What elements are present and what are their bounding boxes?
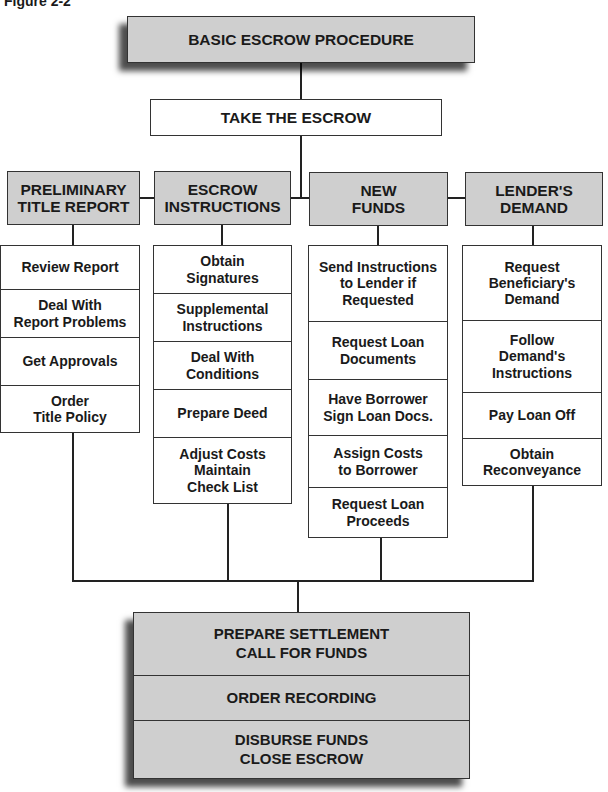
list-item: Order Title Policy [1, 386, 139, 432]
list-item: Assign Costs to Borrower [309, 436, 447, 488]
header-lenders-demand: LENDER'S DEMAND [465, 172, 603, 226]
list-item: Send Instructions to Lender if Requested [309, 246, 447, 322]
task-list-lenders-demand: Request Beneficiary's Demand Follow Dema… [462, 245, 602, 486]
take-escrow-box: TAKE THE ESCROW [150, 99, 442, 136]
task-list-preliminary: Review Report Deal With Report Problems … [0, 245, 140, 433]
connector [72, 224, 74, 246]
list-item: Review Report [1, 246, 139, 290]
connector [532, 225, 534, 246]
closing-step: ORDER RECORDING [134, 676, 469, 721]
title-box: BASIC ESCROW PROCEDURE [127, 16, 475, 63]
closing-box: PREPARE SETTLEMENT CALL FOR FUNDS ORDER … [133, 612, 470, 779]
list-item: Supplemental Instructions [154, 294, 291, 342]
connector [532, 485, 534, 582]
connector [227, 503, 229, 582]
closing-step: DISBURSE FUNDS CLOSE ESCROW [134, 721, 469, 778]
connector [221, 224, 223, 246]
closing-step: PREPARE SETTLEMENT CALL FOR FUNDS [134, 613, 469, 676]
connector [297, 580, 299, 613]
connector [300, 62, 302, 99]
task-list-escrow-instructions: Obtain Signatures Supplemental Instructi… [153, 245, 292, 504]
figure-label: Figure 2-2 [4, 0, 71, 9]
connector [140, 197, 154, 199]
list-item: Follow Demand's Instructions [463, 321, 601, 393]
list-item: Obtain Signatures [154, 246, 291, 294]
list-item: Request Loan Documents [309, 322, 447, 380]
list-item: Deal With Conditions [154, 342, 291, 390]
connector [291, 197, 309, 199]
list-item: Obtain Reconveyance [463, 439, 601, 485]
connector [377, 225, 379, 246]
list-item: Adjust Costs Maintain Check List [154, 438, 291, 503]
connector [72, 580, 534, 582]
header-escrow-instructions: ESCROW INSTRUCTIONS [154, 171, 291, 225]
connector [72, 432, 74, 582]
header-preliminary-title-report: PRELIMINARY TITLE REPORT [7, 171, 140, 225]
header-new-funds: NEW FUNDS [309, 172, 448, 226]
list-item: Request Beneficiary's Demand [463, 246, 601, 321]
list-item: Pay Loan Off [463, 393, 601, 439]
connector [380, 537, 382, 582]
list-item: Prepare Deed [154, 390, 291, 438]
connector [300, 135, 302, 199]
list-item: Get Approvals [1, 338, 139, 386]
list-item: Have Borrower Sign Loan Docs. [309, 380, 447, 436]
connector [448, 197, 465, 199]
task-list-new-funds: Send Instructions to Lender if Requested… [308, 245, 448, 538]
list-item: Deal With Report Problems [1, 290, 139, 338]
list-item: Request Loan Proceeds [309, 488, 447, 537]
